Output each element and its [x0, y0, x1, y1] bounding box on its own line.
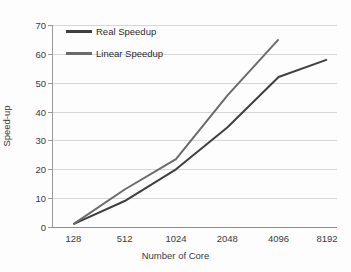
y-axis-tick-label: 60	[0, 48, 46, 59]
y-axis-tick-label: 50	[0, 77, 46, 88]
x-axis-tick-label: 8192	[316, 233, 337, 244]
legend-color-swatch	[66, 30, 92, 33]
legend-label: Linear Speedup	[96, 48, 163, 59]
y-axis-title: Speed-up	[1, 105, 12, 146]
speedup-line-chart: 010203040506070 1285121024204840968192 N…	[0, 0, 351, 272]
legend-item: Real Speedup	[66, 26, 163, 37]
y-axis-tick-label: 10	[0, 193, 46, 204]
x-axis-tick-label: 4096	[268, 233, 289, 244]
series-line	[73, 39, 278, 224]
x-axis-tick-label: 512	[117, 233, 133, 244]
y-axis-tick-label: 0	[0, 222, 46, 233]
x-axis-tick-label: 128	[65, 233, 81, 244]
y-axis-tick-label: 70	[0, 20, 46, 31]
y-axis-tick-label: 20	[0, 164, 46, 175]
legend-item: Linear Speedup	[66, 48, 163, 59]
x-axis-line	[52, 227, 337, 228]
x-axis-tick-label: 1024	[165, 233, 186, 244]
x-axis-tick-label: 2048	[217, 233, 238, 244]
legend-label: Real Speedup	[96, 26, 156, 37]
legend-color-swatch	[66, 52, 92, 55]
chart-legend: Real SpeedupLinear Speedup	[66, 26, 163, 59]
x-axis-title: Number of Core	[0, 250, 351, 261]
